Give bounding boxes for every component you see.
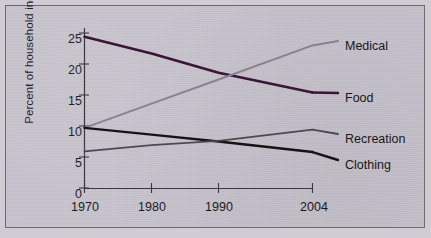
series-line-food <box>85 37 313 93</box>
axes-group <box>79 28 313 193</box>
leader-line-clothing <box>313 152 339 160</box>
leader-line-medical <box>313 41 339 45</box>
chart-screenshot: Percent of household income 25 20 15 10 … <box>0 0 431 238</box>
label-leader-lines <box>313 41 339 160</box>
plot-canvas <box>0 0 431 238</box>
leader-line-recreation <box>313 130 339 134</box>
series-line-medical <box>85 45 313 127</box>
data-series-group <box>85 37 313 152</box>
